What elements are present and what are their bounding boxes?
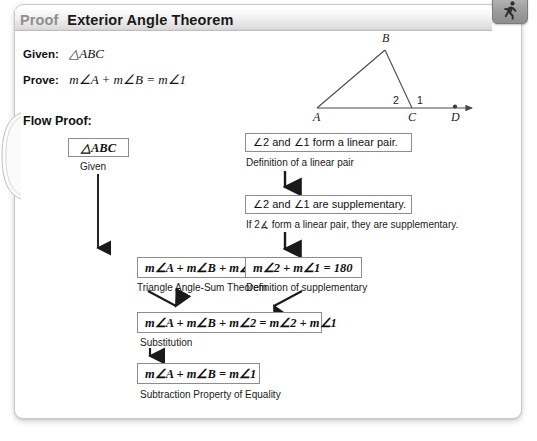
flow-box-substitution-text: m∠A + m∠B + m∠2 = m∠2 + m∠1 xyxy=(145,315,337,331)
flow-box-def-supplementary-text: m∠2 + m∠1 = 180 xyxy=(253,260,352,276)
vertex-label-D: D xyxy=(450,110,460,124)
prove-label: Prove: xyxy=(23,74,59,86)
flow-box-given-text: △ABC xyxy=(81,140,116,156)
flow-box-def-supplementary[interactable]: m∠2 + m∠1 = 180 xyxy=(245,257,362,278)
flow-reason-given: Given xyxy=(80,161,106,172)
flow-box-linear-pair[interactable]: ∠2 and ∠1 form a linear pair. xyxy=(245,133,412,152)
page-title: Exterior Angle Theorem xyxy=(67,12,233,28)
angle-label-1: 1 xyxy=(417,94,423,106)
vertex-label-C: C xyxy=(408,110,417,124)
flow-proof-label: Flow Proof: xyxy=(23,114,92,128)
vertex-label-A: A xyxy=(312,110,321,124)
flow-box-supplementary[interactable]: ∠2 and ∠1 are supplementary. xyxy=(245,195,412,214)
flow-box-supplementary-text: ∠2 and ∠1 are supplementary. xyxy=(253,198,406,211)
point-D-dot xyxy=(453,104,457,108)
running-person-icon[interactable] xyxy=(492,0,528,24)
flow-box-conclusion-text: m∠A + m∠B = m∠1 xyxy=(145,366,256,382)
triangle-diagram: A B C D 2 1 xyxy=(300,24,495,124)
given-label: Given: xyxy=(23,48,59,60)
given-row: Given: △ABC xyxy=(23,44,104,62)
flow-box-linear-pair-text: ∠2 and ∠1 form a linear pair. xyxy=(253,136,398,149)
flow-box-given[interactable]: △ABC xyxy=(68,138,129,157)
angle-label-2: 2 xyxy=(393,94,399,106)
prove-row: Prove: m∠A + m∠B = m∠1 xyxy=(23,70,186,88)
flow-reason-linear-pair: Definition of a linear pair xyxy=(246,157,354,168)
flow-box-substitution[interactable]: m∠A + m∠B + m∠2 = m∠2 + m∠1 xyxy=(137,312,322,333)
prove-value: m∠A + m∠B = m∠1 xyxy=(69,72,186,87)
proof-kicker: Proof xyxy=(20,12,58,28)
side-AB xyxy=(317,50,385,108)
vertex-label-B: B xyxy=(382,31,390,45)
flow-reason-conclusion: Subtraction Property of Equality xyxy=(140,389,281,400)
flow-reason-substitution: Substitution xyxy=(140,337,192,348)
flow-reason-supplementary: If 2∡ form a linear pair, they are suppl… xyxy=(246,219,458,230)
flow-box-conclusion[interactable]: m∠A + m∠B = m∠1 xyxy=(137,363,260,384)
page-curl-icon[interactable] xyxy=(0,112,22,200)
flow-reason-def-supplementary: Definition of supplementary xyxy=(246,282,367,293)
given-value: △ABC xyxy=(69,46,104,61)
